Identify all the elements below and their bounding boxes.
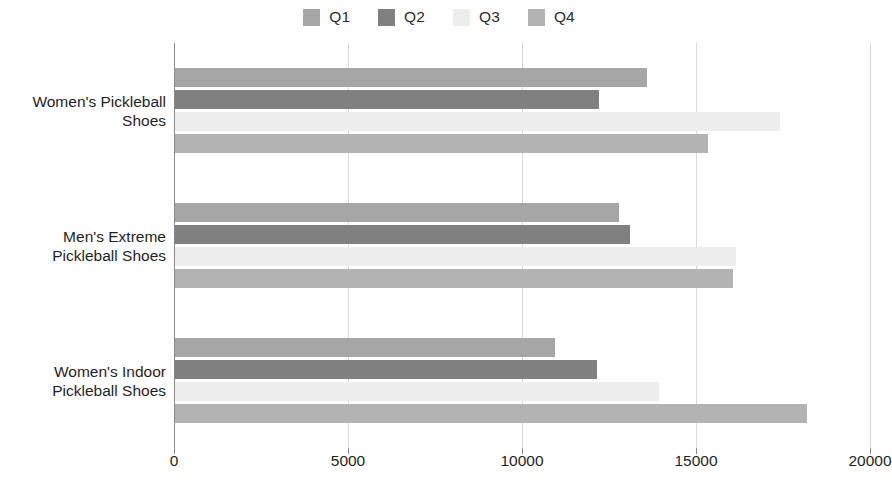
plot-area — [174, 43, 870, 448]
legend-swatch-q2 — [378, 9, 395, 26]
legend-swatch-q1 — [303, 9, 320, 26]
x-tick-label-10000: 10000 — [500, 452, 543, 470]
bar-q3-group-3[interactable] — [174, 382, 659, 401]
bar-q2-group-2[interactable] — [174, 225, 630, 244]
x-tick-label-15000: 15000 — [674, 452, 717, 470]
y-axis-category-labels: Women's Pickleball ShoesMen's Extreme Pi… — [0, 43, 174, 448]
bar-q1-group-1[interactable] — [174, 68, 647, 87]
legend-item-q2[interactable]: Q2 — [378, 8, 425, 26]
legend-item-q4[interactable]: Q4 — [528, 8, 575, 26]
y-axis-line — [174, 43, 175, 448]
legend-label-q4: Q4 — [554, 8, 575, 26]
x-tick-label-0: 0 — [170, 452, 179, 470]
x-tick-label-5000: 5000 — [331, 452, 365, 470]
bar-q2-group-1[interactable] — [174, 90, 599, 109]
y-axis-label-2: Men's Extreme Pickleball Shoes — [0, 227, 174, 265]
bar-q3-group-2[interactable] — [174, 247, 736, 266]
bar-q4-group-2[interactable] — [174, 269, 733, 288]
bar-q2-group-3[interactable] — [174, 360, 597, 379]
x-tick-label-20000: 20000 — [848, 452, 891, 470]
bar-q3-group-1[interactable] — [174, 112, 780, 131]
bar-q1-group-3[interactable] — [174, 338, 555, 357]
y-axis-label-3: Women's Indoor Pickleball Shoes — [0, 362, 174, 400]
x-axis-tick-labels: 05000100001500020000 — [0, 452, 878, 482]
chart-legend: Q1 Q2 Q3 Q4 — [0, 0, 878, 34]
legend-label-q3: Q3 — [479, 8, 500, 26]
bar-q4-group-3[interactable] — [174, 404, 807, 423]
gridline — [870, 43, 871, 448]
legend-swatch-q3 — [453, 9, 470, 26]
bar-q1-group-2[interactable] — [174, 203, 619, 222]
legend-label-q2: Q2 — [404, 8, 425, 26]
y-axis-label-1: Women's Pickleball Shoes — [0, 92, 174, 130]
legend-item-q3[interactable]: Q3 — [453, 8, 500, 26]
bar-q4-group-1[interactable] — [174, 134, 708, 153]
legend-swatch-q4 — [528, 9, 545, 26]
legend-label-q1: Q1 — [329, 8, 350, 26]
legend-item-q1[interactable]: Q1 — [303, 8, 350, 26]
gridline — [696, 43, 697, 448]
